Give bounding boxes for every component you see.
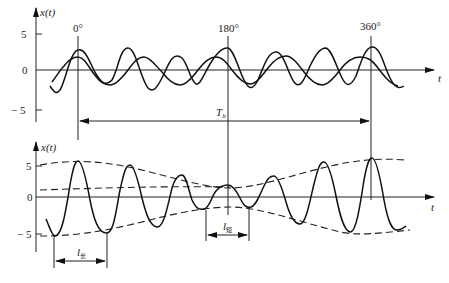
marker-360-deg: 360° bbox=[360, 20, 381, 32]
bottom-tick-label-neg5: − 5 bbox=[17, 228, 32, 240]
top-t-label: t bbox=[438, 72, 442, 84]
mean-offset-line bbox=[40, 187, 230, 190]
upper-envelope bbox=[40, 159, 405, 188]
marker-0-deg: 0° bbox=[73, 22, 83, 34]
top-y-label: x(t) bbox=[39, 6, 56, 19]
short-period-label: l短 bbox=[223, 220, 232, 234]
top-tick-label-0: 0 bbox=[22, 64, 28, 76]
top-tick-label-neg5: − 5 bbox=[11, 104, 26, 116]
bottom-t-label: t bbox=[431, 201, 435, 213]
top-tick-label-5: 5 bbox=[21, 28, 27, 40]
bottom-tick-label-5: 5 bbox=[26, 160, 32, 172]
bottom-tick-label-0: 0 bbox=[27, 191, 33, 203]
long-period-label: l长 bbox=[77, 246, 86, 260]
bottom-plot: x(t) t 5 0 − 5 l长 l短 bbox=[17, 141, 435, 268]
top-plot: x(t) t 5 0 − 5 0° 180° 360° Tb bbox=[11, 6, 442, 215]
beat-period-label: Tb bbox=[216, 106, 226, 120]
beat-waveform-diagram: x(t) t 5 0 − 5 0° 180° 360° Tb x(t) bbox=[0, 0, 449, 283]
bottom-y-label: x(t) bbox=[40, 141, 57, 154]
marker-180-deg: 180° bbox=[218, 22, 239, 34]
top-wave-low-frequency bbox=[52, 56, 398, 86]
